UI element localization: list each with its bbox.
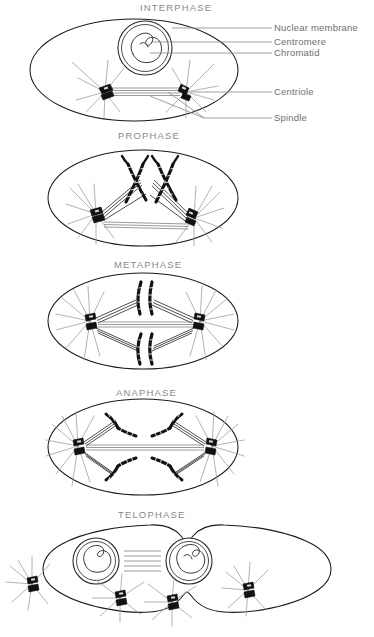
- fiber-bundle-upper-left: [84, 420, 118, 446]
- chromosome-right: [152, 156, 178, 202]
- chromatid-lower-right: [152, 457, 182, 481]
- cell-membrane: [48, 273, 238, 369]
- centriole-far-left: [27, 576, 39, 592]
- interphase-cell-illustration: [0, 0, 374, 128]
- metaphase-cell-illustration: [0, 256, 374, 384]
- aster-left: [46, 412, 94, 486]
- centriole-left: [90, 207, 105, 223]
- chromatid-lower-left: [106, 457, 136, 481]
- chromosome-upper: [138, 282, 155, 314]
- centriole-inner-right: [167, 594, 179, 610]
- centriole-left: [99, 84, 114, 100]
- spindle-lower-left: [96, 328, 138, 351]
- fiber-bundle-lower-right: [174, 452, 206, 476]
- aster-left: [72, 60, 124, 118]
- label-nuclear-membrane: Nuclear membrane: [274, 22, 358, 33]
- spindle-lower-right: [152, 328, 194, 351]
- spindle-polar-fibers: [98, 322, 194, 327]
- panel-interphase: INTERPHASE: [0, 0, 374, 128]
- centriole-right: [205, 438, 217, 455]
- prophase-cell-illustration: [0, 128, 374, 256]
- label-chromatid: Chromatid: [274, 47, 320, 58]
- spindle-upper-left: [96, 300, 138, 323]
- centriole-left: [73, 438, 85, 455]
- centriole-far-right: [243, 582, 255, 598]
- panel-prophase: PROPHASE: [0, 128, 374, 256]
- mitosis-diagram: INTERPHASE: [0, 0, 374, 637]
- spindle-fibers: [112, 88, 180, 96]
- centriole-inner-left: [115, 590, 127, 606]
- label-centromere: Centromere: [274, 36, 326, 47]
- aster-left: [56, 286, 104, 360]
- fiber-bundle-lower-left: [84, 452, 114, 476]
- cell-membrane: [48, 399, 238, 495]
- centriole-right: [185, 208, 198, 226]
- nuclear-membrane-inner-left: [77, 542, 116, 581]
- panel-metaphase: METAPHASE: [0, 256, 374, 384]
- label-spindle: Spindle: [274, 112, 307, 123]
- spindle-fibers-polar: [104, 222, 188, 229]
- anaphase-cell-illustration: [0, 384, 374, 506]
- aster-inner-right: [144, 578, 196, 626]
- chromatid-upper-right: [152, 413, 182, 437]
- label-centriole: Centriole: [274, 86, 314, 97]
- aster-right: [186, 286, 234, 360]
- panel-telophase: TELOPHASE: [0, 506, 374, 637]
- spindle-remnant-fibers: [124, 551, 161, 571]
- telophase-cell-illustration: [0, 506, 374, 637]
- chromatid-upper-left: [106, 413, 136, 437]
- spindle-polar-fibers: [86, 445, 204, 450]
- chromosome-lower: [138, 334, 155, 364]
- aster-left: [66, 184, 114, 244]
- nuclear-membrane-inner-right: [170, 542, 209, 581]
- spindle-upper-right: [152, 300, 194, 323]
- panel-anaphase: ANAPHASE: [0, 384, 374, 506]
